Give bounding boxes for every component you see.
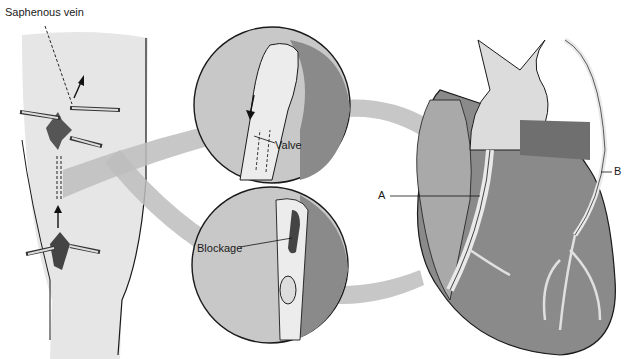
valve-detail-circle	[194, 27, 350, 183]
label-graft-b: B	[614, 165, 621, 177]
leg	[22, 32, 148, 359]
heart	[417, 40, 616, 355]
label-blockage: Blockage	[197, 242, 242, 254]
label-graft-a: A	[378, 189, 385, 201]
blockage-detail-circle	[192, 187, 348, 343]
bypass-illustration: Saphenous vein Valve Blockage A B	[0, 0, 630, 359]
label-valve: Valve	[275, 139, 302, 151]
label-saphenous-vein: Saphenous vein	[5, 6, 84, 18]
